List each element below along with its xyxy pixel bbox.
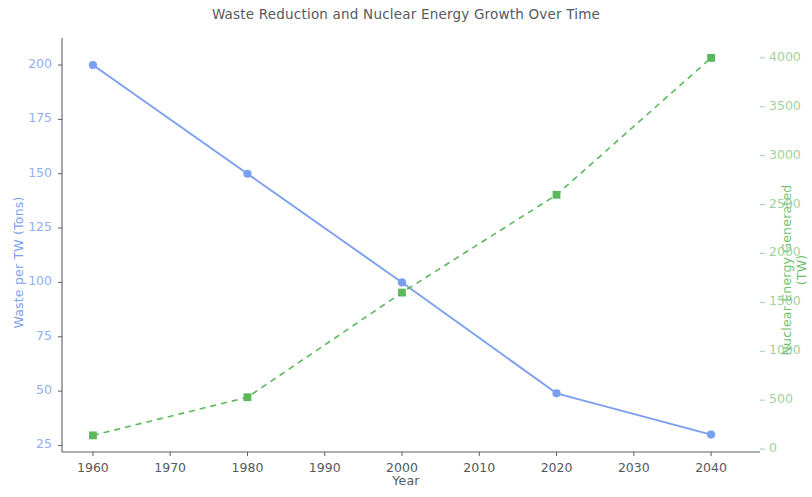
- data-point-waste: [398, 278, 406, 286]
- chart-figure: Waste Reduction and Nuclear Energy Growt…: [0, 0, 812, 497]
- data-point-waste: [707, 431, 715, 439]
- data-point-waste: [89, 61, 97, 69]
- series-line-nuclear: [93, 58, 711, 436]
- data-point-nuclear: [398, 289, 406, 297]
- data-point-nuclear: [553, 191, 561, 199]
- series-line-waste: [93, 65, 711, 435]
- data-point-nuclear: [244, 393, 252, 401]
- data-point-waste: [243, 170, 251, 178]
- data-point-nuclear: [89, 431, 97, 439]
- data-point-waste: [552, 389, 560, 397]
- plot-area: [0, 0, 812, 497]
- data-point-nuclear: [707, 54, 715, 62]
